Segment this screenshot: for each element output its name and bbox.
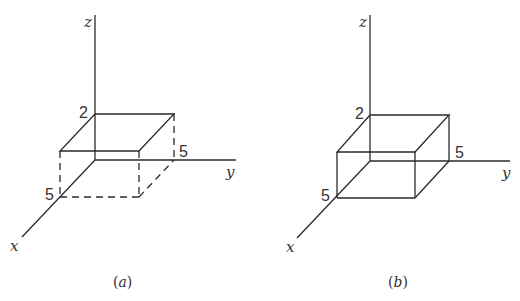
y-axis-label: y bbox=[501, 164, 511, 182]
caption-b: (b) bbox=[388, 274, 408, 290]
box-edge-bottom-right bbox=[415, 161, 449, 198]
y-extent-label: 5 bbox=[455, 144, 464, 161]
z-axis-label: z bbox=[358, 13, 367, 31]
x-axis bbox=[22, 160, 95, 237]
x-extent-label: 5 bbox=[45, 186, 54, 203]
x-axis-label: x bbox=[10, 237, 19, 255]
y-extent-label: 5 bbox=[179, 143, 188, 160]
box-edge-bottom-right bbox=[139, 160, 174, 197]
caption-a: (a) bbox=[113, 274, 132, 290]
figure-b: z y x 2 5 5 (b) bbox=[286, 13, 511, 290]
figure-canvas: z y x 2 5 5 (a) z y x 2 5 5 (b) bbox=[0, 0, 520, 301]
z-axis-label: z bbox=[83, 13, 92, 31]
box-top-face bbox=[337, 115, 449, 152]
height-label: 2 bbox=[79, 104, 88, 121]
height-label: 2 bbox=[355, 105, 364, 122]
x-extent-label: 5 bbox=[321, 187, 330, 204]
y-axis-label: y bbox=[225, 163, 235, 181]
x-axis-label: x bbox=[286, 238, 295, 256]
x-axis bbox=[297, 161, 370, 238]
box-top-face bbox=[60, 114, 174, 151]
figure-a: z y x 2 5 5 (a) bbox=[10, 13, 236, 290]
